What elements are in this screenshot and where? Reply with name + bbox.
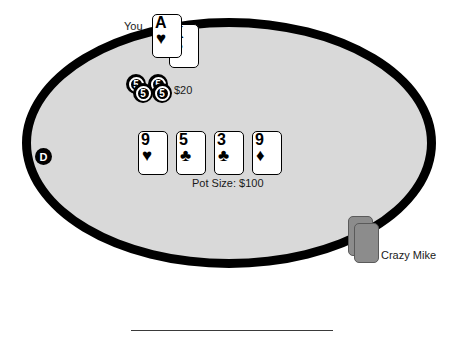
- opponent-name-label: Crazy Mike: [381, 249, 436, 261]
- opponent-facedown-card: [354, 223, 379, 263]
- chip-value: 5: [152, 83, 172, 103]
- bottom-divider: [131, 330, 333, 331]
- pot-size-label: Pot Size: $100: [192, 177, 264, 189]
- clubs-icon: ♣: [218, 147, 229, 164]
- community-card[interactable]: 3 ♣: [214, 131, 244, 175]
- hearts-icon: ♥: [142, 147, 152, 164]
- dealer-button-label: D: [40, 151, 48, 163]
- poker-table-scene: D You A ♥ K ♥ 5 5 5 5 $20 9 ♥ 5 ♣ 3 ♣: [0, 0, 465, 348]
- diamonds-icon: ♦: [256, 147, 265, 164]
- poker-chip[interactable]: 5: [152, 83, 172, 103]
- community-card[interactable]: 9 ♦: [252, 131, 282, 175]
- hole-card[interactable]: A ♥: [152, 14, 182, 58]
- hearts-icon: ♥: [156, 30, 166, 47]
- player-bet-amount: $20: [174, 84, 192, 96]
- player-label: You: [124, 20, 143, 32]
- clubs-icon: ♣: [180, 147, 191, 164]
- community-card[interactable]: 5 ♣: [176, 131, 206, 175]
- community-card[interactable]: 9 ♥: [138, 131, 168, 175]
- poker-chip[interactable]: 5: [133, 83, 153, 103]
- dealer-button[interactable]: D: [35, 148, 52, 165]
- chip-value: 5: [133, 83, 153, 103]
